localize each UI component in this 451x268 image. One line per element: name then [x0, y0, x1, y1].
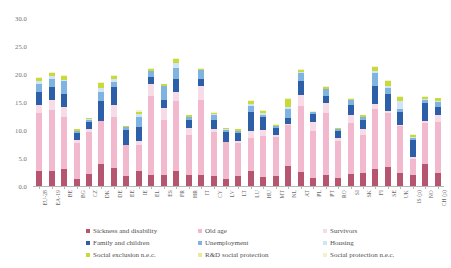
bar-column[interactable] [394, 18, 406, 186]
x-axis-label-cell: EL [145, 190, 157, 222]
bar-column[interactable] [432, 18, 444, 186]
bar-column[interactable] [145, 18, 157, 186]
stacked-bar[interactable] [186, 115, 192, 186]
legend-item[interactable]: R&D social protection [198, 251, 323, 259]
bar-column[interactable] [182, 18, 194, 186]
bar-segment [173, 92, 179, 102]
x-axis-tick [382, 186, 394, 189]
stacked-bar[interactable] [360, 115, 366, 186]
bar-segment [161, 100, 167, 107]
bar-segment [273, 176, 279, 186]
bar-column[interactable] [108, 18, 120, 186]
legend-item[interactable]: Family and children [86, 239, 198, 247]
stacked-bar[interactable] [86, 118, 92, 186]
bar-column[interactable] [332, 18, 344, 186]
bar-column[interactable] [195, 18, 207, 186]
bar-column[interactable] [357, 18, 369, 186]
legend-item[interactable]: Social protection n.e.c. [323, 251, 433, 259]
bar-column[interactable] [295, 18, 307, 186]
stacked-bar[interactable] [74, 129, 80, 186]
y-axis-tick-label: 15.0 [15, 99, 27, 106]
stacked-bar[interactable] [248, 100, 254, 186]
bar-column[interactable] [220, 18, 232, 186]
stacked-bar[interactable] [136, 110, 142, 186]
bar-column[interactable] [120, 18, 132, 186]
bar-column[interactable] [257, 18, 269, 186]
legend-item[interactable]: Old age [198, 227, 323, 235]
stacked-bar[interactable] [285, 98, 291, 186]
bar-segment [61, 107, 67, 118]
bar-column[interactable] [45, 18, 57, 186]
legend-item[interactable]: Sickness and disability [86, 227, 198, 235]
bar-segment [148, 175, 154, 186]
bar-segment [310, 122, 316, 130]
stacked-bar[interactable] [273, 124, 279, 186]
y-axis-tick-label: 5.0 [18, 155, 27, 162]
legend-item[interactable]: Survivors [323, 227, 433, 235]
bar-column[interactable] [319, 18, 331, 186]
bar-column[interactable] [83, 18, 95, 186]
bar-column[interactable] [58, 18, 70, 186]
bar-column[interactable] [95, 18, 107, 186]
bar-segment [49, 110, 55, 172]
x-axis-label-cell: LV [220, 190, 232, 222]
x-axis-tick [83, 186, 95, 189]
x-axis-tick [332, 186, 344, 189]
bar-column[interactable] [270, 18, 282, 186]
stacked-bar[interactable] [410, 134, 416, 186]
bar-column[interactable] [170, 18, 182, 186]
stacked-bar[interactable] [36, 77, 42, 186]
bar-column[interactable] [133, 18, 145, 186]
legend-item[interactable]: Unemployment [198, 239, 323, 247]
stacked-bar[interactable] [173, 58, 179, 186]
stacked-bar[interactable] [198, 68, 204, 186]
bar-column[interactable] [344, 18, 356, 186]
bar-column[interactable] [407, 18, 419, 186]
bar-segment [385, 113, 391, 167]
bar-column[interactable] [419, 18, 431, 186]
stacked-bar[interactable] [260, 110, 266, 186]
x-axis-label-cell: PT [319, 190, 331, 222]
bar-column[interactable] [232, 18, 244, 186]
stacked-bar[interactable] [310, 111, 316, 186]
bar-segment [161, 120, 167, 175]
stacked-bar[interactable] [123, 126, 129, 186]
stacked-bar[interactable] [61, 75, 67, 186]
bar-column[interactable] [70, 18, 82, 186]
stacked-bar[interactable] [348, 98, 354, 186]
bar-column[interactable] [307, 18, 319, 186]
stacked-bar[interactable] [335, 128, 341, 186]
stacked-bar[interactable] [298, 69, 304, 186]
bar-column[interactable] [245, 18, 257, 186]
bar-segment [397, 112, 403, 125]
stacked-bar[interactable] [435, 98, 441, 186]
stacked-bar[interactable] [422, 96, 428, 186]
stacked-bar[interactable] [235, 129, 241, 186]
bar-column[interactable] [382, 18, 394, 186]
stacked-bar[interactable] [385, 80, 391, 186]
stacked-bar[interactable] [211, 112, 217, 186]
stacked-bar[interactable] [111, 75, 117, 186]
stacked-bar[interactable] [323, 86, 329, 186]
stacked-bar[interactable] [148, 68, 154, 186]
x-axis-tick [120, 186, 132, 189]
bar-column[interactable] [33, 18, 45, 186]
stacked-bar[interactable] [397, 96, 403, 186]
bar-segment [111, 105, 117, 116]
stacked-bar[interactable] [372, 66, 378, 186]
bar-column[interactable] [207, 18, 219, 186]
bar-column[interactable] [369, 18, 381, 186]
stacked-bar[interactable] [49, 72, 55, 186]
stacked-bar-chart: 30.025.020.015.010.05.00.0 EU-28EA-19BEB… [0, 0, 451, 268]
bar-column[interactable] [282, 18, 294, 186]
bar-column[interactable] [158, 18, 170, 186]
legend-item[interactable]: Housing [323, 239, 433, 247]
bar-segment [148, 96, 154, 175]
bar-segment [273, 137, 279, 176]
bar-segment [248, 131, 254, 139]
stacked-bar[interactable] [223, 128, 229, 186]
legend-item[interactable]: Social exclusion n.e.c. [86, 251, 198, 259]
bar-segment [61, 81, 67, 94]
stacked-bar[interactable] [161, 84, 167, 186]
stacked-bar[interactable] [98, 82, 104, 186]
